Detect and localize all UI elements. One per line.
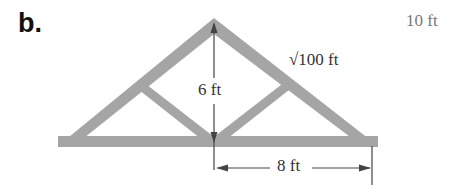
half-span-label: 8 ft (277, 156, 300, 176)
height-label: 6 ft (198, 80, 221, 100)
rafter-label: √100 ft (289, 50, 338, 70)
truss-diagram (0, 0, 456, 196)
answer-label: 10 ft (406, 11, 438, 31)
